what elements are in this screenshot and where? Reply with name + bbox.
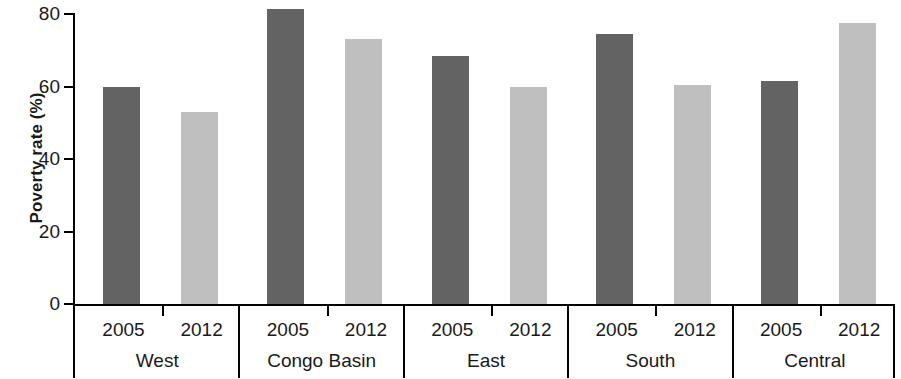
- x-axis-year-tick: [655, 305, 657, 316]
- x-axis-year-label-2012: 2012: [326, 319, 406, 341]
- bar-east-2005: [432, 56, 469, 304]
- x-axis-group-label-congo-basin: Congo Basin: [232, 350, 412, 372]
- x-axis-year-tick: [327, 305, 329, 316]
- x-axis-year-label-2012: 2012: [490, 319, 570, 341]
- x-axis-year-label-2012: 2012: [655, 319, 735, 341]
- bar-central-2005: [761, 81, 798, 304]
- bar-south-2012: [674, 85, 711, 304]
- bar-west-2005: [103, 87, 140, 305]
- bar-congo-basin-2005: [267, 9, 304, 304]
- x-axis-year-tick: [162, 305, 164, 316]
- x-axis-group-label-east: East: [396, 350, 576, 372]
- x-axis-label-band: 20052012West20052012Congo Basin20052012E…: [73, 305, 895, 378]
- x-axis-group-label-south: South: [560, 350, 740, 372]
- poverty-rate-bar-chart: Poverty rate (%) 806040200 20052012West2…: [0, 0, 901, 379]
- x-axis-year-label-2005: 2005: [248, 319, 328, 341]
- x-axis-year-label-2012: 2012: [162, 319, 242, 341]
- bar-congo-basin-2012: [345, 39, 382, 304]
- y-axis-tick-label: 80: [0, 4, 60, 23]
- bar-south-2005: [596, 34, 633, 304]
- bar-east-2012: [510, 87, 547, 305]
- x-axis-year-label-2005: 2005: [83, 319, 163, 341]
- plot-area: [73, 0, 895, 305]
- y-axis-tick-label: 60: [0, 77, 60, 96]
- y-axis-tick-label: 20: [0, 222, 60, 241]
- bar-west-2012: [181, 112, 218, 304]
- x-axis-group-label-central: Central: [725, 350, 901, 372]
- x-axis-year-label-2005: 2005: [577, 319, 657, 341]
- x-axis-group-label-west: West: [67, 350, 247, 372]
- x-axis-year-tick: [491, 305, 493, 316]
- x-axis-year-tick: [820, 305, 822, 316]
- x-axis-year-label-2005: 2005: [741, 319, 821, 341]
- x-axis-year-label-2005: 2005: [412, 319, 492, 341]
- bar-central-2012: [839, 23, 876, 304]
- y-axis-tick-label: 0: [0, 294, 60, 313]
- y-axis-tick-label: 40: [0, 149, 60, 168]
- x-axis-year-label-2012: 2012: [819, 319, 899, 341]
- y-axis-tick-labels: 806040200: [0, 0, 60, 379]
